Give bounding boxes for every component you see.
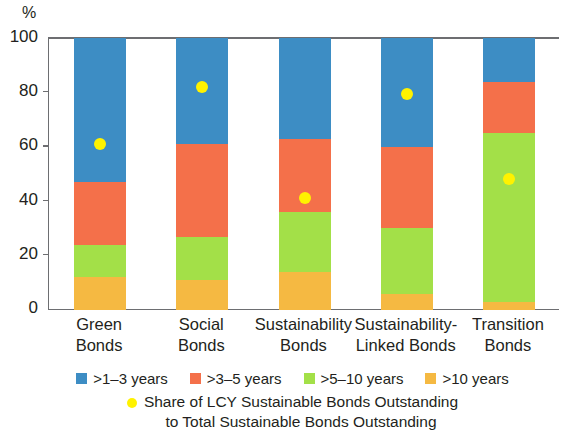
y-axis-tick-label: 20 xyxy=(19,244,38,264)
x-axis-category-label: TransitionBonds xyxy=(457,314,559,356)
bar-segment[interactable] xyxy=(176,237,228,281)
x-axis-category-label-line: Bonds xyxy=(457,335,559,356)
bar-column[interactable] xyxy=(176,38,228,309)
legend-swatch-icon xyxy=(425,373,436,384)
legend-overlay-label: Share of LCY Sustainable Bonds Outstandi… xyxy=(144,392,458,432)
bar-segment[interactable] xyxy=(74,182,126,245)
y-axis-tick-mark xyxy=(43,91,49,92)
legend-item[interactable]: >10 years xyxy=(425,370,508,387)
legend-item-label: >5–10 years xyxy=(321,370,404,387)
legend-item-label: >3–5 years xyxy=(207,370,282,387)
y-axis-tick-label: 60 xyxy=(19,135,38,155)
bar-column[interactable] xyxy=(74,38,126,309)
y-axis-tick-label: 0 xyxy=(29,298,38,318)
y-axis-tick-mark xyxy=(43,145,49,146)
bar-segment[interactable] xyxy=(279,38,331,139)
legend-overlay-row: Share of LCY Sustainable Bonds Outstandi… xyxy=(0,392,585,432)
legend-overlay-label-line2: to Total Sustainable Bonds Outstanding xyxy=(144,412,458,432)
x-axis-category-label-line: Sustainability- xyxy=(355,314,457,335)
x-axis-category-label-line: Bonds xyxy=(252,335,354,356)
bar-segment[interactable] xyxy=(483,133,535,302)
x-axis-category-label-line: Transition xyxy=(457,314,559,335)
legend-item[interactable]: >1–3 years xyxy=(76,370,168,387)
x-axis-labels: GreenBondsSocialBondsSustainabilityBonds… xyxy=(48,314,559,366)
bar-column[interactable] xyxy=(279,38,331,309)
chart-legend: >1–3 years>3–5 years>5–10 years>10 years… xyxy=(0,370,585,432)
legend-item-label: >10 years xyxy=(442,370,508,387)
x-axis-category-label-line: Social xyxy=(150,314,252,335)
legend-series-row: >1–3 years>3–5 years>5–10 years>10 years xyxy=(0,370,585,387)
y-axis-unit-label: % xyxy=(22,4,37,22)
legend-overlay-dot-icon xyxy=(127,398,137,408)
bar-segment[interactable] xyxy=(483,38,535,82)
overlay-dot-marker[interactable] xyxy=(401,88,413,100)
overlay-dot-marker[interactable] xyxy=(503,173,515,185)
bar-column[interactable] xyxy=(381,38,433,309)
bar-segment[interactable] xyxy=(279,212,331,272)
y-axis-tick-label: 80 xyxy=(19,81,38,101)
x-axis-category-label: GreenBonds xyxy=(48,314,150,356)
bar-segment[interactable] xyxy=(381,147,433,229)
bar-segment[interactable] xyxy=(483,82,535,134)
legend-overlay-label-line1: Share of LCY Sustainable Bonds Outstandi… xyxy=(144,392,458,412)
overlay-dot-marker[interactable] xyxy=(299,192,311,204)
x-axis-category-label-line: Green xyxy=(48,314,150,335)
legend-swatch-icon xyxy=(304,373,315,384)
y-axis-tick-label: 100 xyxy=(10,27,38,47)
legend-swatch-icon xyxy=(76,373,87,384)
bar-segment[interactable] xyxy=(279,272,331,310)
x-axis-category-label: Sustainability-Linked Bonds xyxy=(355,314,457,356)
overlay-dot-marker[interactable] xyxy=(196,81,208,93)
y-axis-tick-mark xyxy=(43,254,49,255)
bar-segment[interactable] xyxy=(74,38,126,182)
x-axis-category-label-line: Sustainability xyxy=(252,314,354,335)
y-axis-tick-mark xyxy=(43,200,49,201)
legend-item[interactable]: >5–10 years xyxy=(304,370,404,387)
bar-segment[interactable] xyxy=(176,144,228,236)
bar-segment[interactable] xyxy=(381,228,433,293)
bar-segment[interactable] xyxy=(74,277,126,310)
bar-series-container xyxy=(49,38,559,309)
x-axis-category-label-line: Bonds xyxy=(48,335,150,356)
bar-segment[interactable] xyxy=(176,280,228,310)
bar-segment[interactable] xyxy=(74,245,126,278)
legend-item[interactable]: >3–5 years xyxy=(190,370,282,387)
bar-segment[interactable] xyxy=(381,294,433,310)
x-axis-category-label: SocialBonds xyxy=(150,314,252,356)
legend-item-label: >1–3 years xyxy=(93,370,168,387)
overlay-dot-marker[interactable] xyxy=(94,138,106,150)
x-axis-category-label-line: Bonds xyxy=(150,335,252,356)
stacked-bar-chart: % 020406080100 GreenBondsSocialBondsSust… xyxy=(0,0,585,436)
x-axis-category-label-line: Linked Bonds xyxy=(355,335,457,356)
x-axis-category-label: SustainabilityBonds xyxy=(252,314,354,356)
legend-swatch-icon xyxy=(190,373,201,384)
y-axis-tick-label: 40 xyxy=(19,190,38,210)
bar-segment[interactable] xyxy=(483,302,535,310)
plot-area: 020406080100 xyxy=(48,38,559,310)
